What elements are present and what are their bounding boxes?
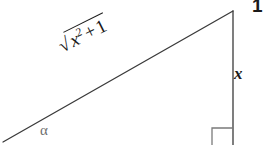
geometry-diagram: α x 1 √x2+1 xyxy=(0,0,263,145)
angle-label-alpha: α xyxy=(40,123,48,138)
right-angle-marker xyxy=(212,128,233,145)
clipped-label-one: 1 xyxy=(252,0,263,15)
hypotenuse-line xyxy=(3,11,233,142)
side-label-x: x xyxy=(234,65,243,82)
